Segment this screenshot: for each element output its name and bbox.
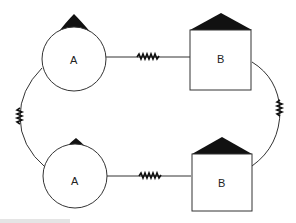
node-label: A [71,175,79,187]
node-a-top: A [42,14,106,91]
zigzag-left-icon [17,108,22,124]
node-label: A [70,54,78,66]
node-a-bottom: A [43,138,107,208]
zigzag-top-icon [137,54,159,59]
edge-a-top-a-bottom [20,68,46,168]
clipped-caption [0,219,70,223]
diagram-canvas: A B A B [0,0,296,223]
node-b-top: B [190,13,252,90]
roof-icon [190,13,252,30]
zigzag-bottom-icon [139,173,161,178]
node-b-bottom: B [192,137,252,211]
node-label: B [217,53,224,65]
roof-icon [192,137,252,154]
node-label: B [218,177,225,189]
